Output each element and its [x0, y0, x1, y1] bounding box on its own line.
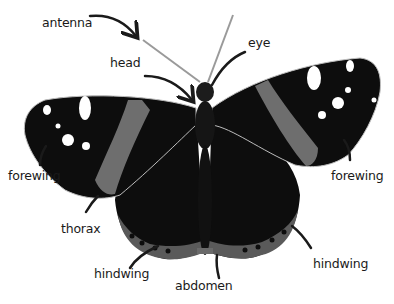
- abdomen-shape: [198, 145, 212, 255]
- label-hindwing-left: hindwing: [94, 266, 149, 281]
- antenna-arrow: [90, 16, 136, 36]
- abdomen-line: [217, 255, 219, 278]
- label-forewing-left: forewing: [8, 168, 61, 183]
- head-arrow: [145, 76, 192, 100]
- label-hindwing-right: hindwing: [313, 256, 368, 271]
- label-eye: eye: [248, 35, 270, 50]
- label-antenna: antenna: [42, 15, 92, 30]
- label-thorax: thorax: [61, 221, 100, 236]
- thorax-shape: [195, 101, 215, 149]
- label-abdomen: abdomen: [175, 278, 233, 293]
- label-forewing-right: forewing: [331, 168, 384, 183]
- hindwing-right-line: [292, 226, 311, 248]
- label-head: head: [110, 55, 140, 70]
